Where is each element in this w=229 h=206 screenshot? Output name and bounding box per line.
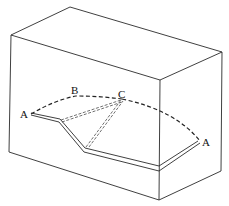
dashed-arc-right [122, 99, 200, 141]
label-c: C [118, 88, 125, 100]
top-face [11, 7, 222, 80]
double-dashed-lines [61, 100, 123, 147]
label-a-right: A [202, 136, 210, 148]
label-b: B [71, 84, 78, 96]
box-outline [9, 7, 222, 200]
right-face [159, 52, 222, 200]
dashed-arc-left [31, 96, 122, 114]
block-diagram: A B C A [0, 0, 229, 206]
left-face [9, 35, 160, 200]
crack-trace [31, 113, 200, 171]
label-a-left: A [20, 108, 28, 120]
